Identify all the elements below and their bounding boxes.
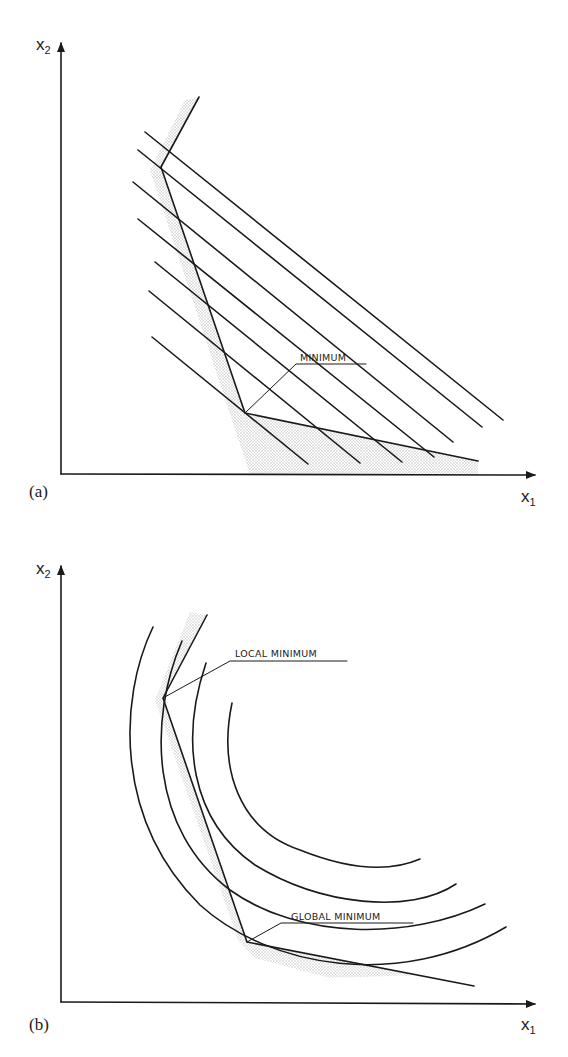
- minimum-label: MINIMUM: [300, 352, 346, 363]
- y-axis-label-b: x2: [36, 559, 51, 580]
- shaded-region-a: [150, 97, 478, 474]
- x-axis-a: [61, 474, 535, 475]
- panel-label-b: (b): [29, 1015, 49, 1034]
- y-axis-label-a: x2: [36, 35, 51, 56]
- panel-b: LOCAL MINIMUM GLOBAL MINIMUM x2 x1 (b): [29, 559, 536, 1036]
- x-axis-b: [61, 1002, 535, 1004]
- x-axis-label-a: x1: [521, 487, 536, 508]
- local-minimum-leader-line: [163, 661, 347, 698]
- panel-label-a: (a): [29, 482, 48, 501]
- global-minimum-leader-line: [247, 923, 413, 942]
- constraint-boundary-b: [163, 615, 474, 986]
- x-axis-label-b: x1: [521, 1015, 536, 1036]
- panel-a: MINIMUM x2 x1 (a): [29, 35, 536, 508]
- objective-contours-a: [133, 132, 503, 464]
- optimization-figure: MINIMUM x2 x1 (a) LOCAL MINIMUM GLOBAL M…: [0, 0, 568, 1057]
- local-minimum-label: LOCAL MINIMUM: [235, 648, 317, 659]
- constraint-boundary-a: [161, 97, 478, 461]
- global-minimum-label: GLOBAL MINIMUM: [291, 911, 381, 922]
